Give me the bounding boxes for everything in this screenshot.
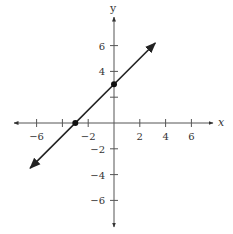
x-ticks: −6−2246 [29,119,194,142]
intercept-point [72,120,78,126]
y-axis-label: y [109,2,117,15]
x-tick-label: 6 [188,131,194,142]
x-tick-label: −2 [81,131,96,142]
y-tick-label: 4 [99,66,105,77]
y-tick-label: −6 [90,195,105,206]
x-tick-label: −6 [29,131,44,142]
intercept-point [111,81,117,87]
x-axis-label: x [218,116,225,129]
y-tick-label: 6 [99,41,105,52]
coordinate-plane: −6−2246 64−2−4−6 x y [0,0,233,234]
y-tick-label: −4 [90,170,105,181]
x-tick-label: 2 [137,131,143,142]
x-tick-label: 4 [162,131,168,142]
y-tick-label: −2 [90,144,105,155]
